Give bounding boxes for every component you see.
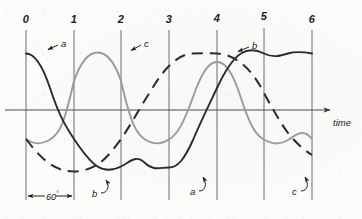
waveform-plot [0, 0, 362, 219]
gridlines [26, 28, 312, 200]
callout-leaders [48, 45, 307, 193]
x-tick-label-1: 1 [71, 13, 77, 25]
leader-c-bottom [301, 177, 307, 191]
curve-label-c-bottom: c [292, 186, 297, 197]
curve-label-a-top: a [61, 38, 66, 49]
x-tick-label-3: 3 [166, 13, 172, 25]
x-tick-label-4: 4 [214, 12, 220, 24]
leader-c-top [131, 45, 141, 51]
x-tick-label-6: 6 [309, 13, 315, 25]
time-axis-label: time [333, 117, 351, 128]
curve-label-b-bottom: b [92, 188, 97, 199]
curve-label-b-top: b [252, 40, 257, 51]
phase-separation-unit: ° [56, 190, 59, 197]
leader-a-top [48, 45, 58, 50]
curve-label-c-top: c [144, 38, 149, 49]
x-tick-label-5: 5 [261, 10, 267, 22]
curve-label-a-bottom: a [190, 186, 195, 197]
x-tick-label-2: 2 [118, 13, 124, 25]
three-phase-waveform-figure: 0 1 2 3 4 5 6 a c b b a c time 60° [0, 0, 362, 219]
x-tick-label-0: 0 [23, 13, 29, 25]
leader-a-bottom [199, 177, 205, 191]
phase-separation-label: 60° [46, 190, 59, 202]
leader-b-bottom [101, 180, 108, 193]
phase-separation-value: 60 [46, 192, 56, 202]
